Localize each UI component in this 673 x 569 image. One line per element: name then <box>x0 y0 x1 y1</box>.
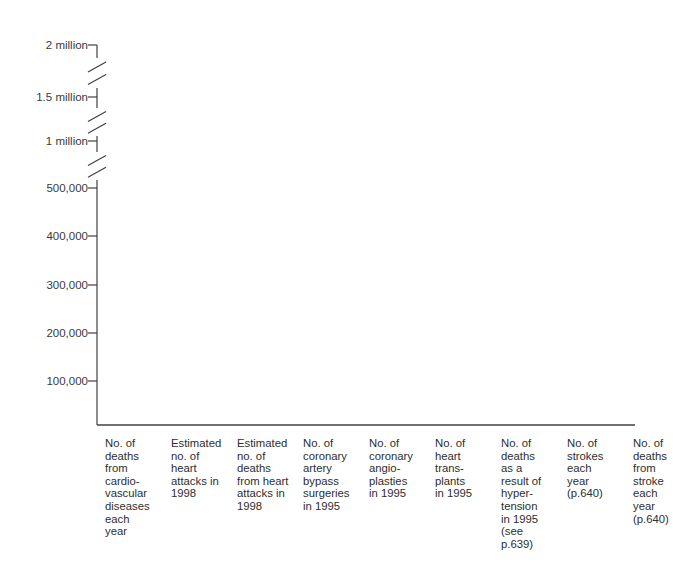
category-label: No. of deaths from cardio- vascular dise… <box>105 437 171 538</box>
category-label: No. of deaths as a result of hyper- tens… <box>501 437 567 550</box>
y-tick-label: 300,000 <box>46 279 88 291</box>
category-label: Estimated no. of deaths from heart attac… <box>237 437 303 513</box>
category-label: No. of coronary angio- plasties in 1995 <box>369 437 435 500</box>
y-tick-label: 200,000 <box>46 327 88 339</box>
y-tick-label: 500,000 <box>46 182 88 194</box>
y-tick-label: 1 million <box>46 135 88 147</box>
category-label: Estimated no. of heart attacks in 1998 <box>171 437 237 500</box>
category-labels: No. of deaths from cardio- vascular dise… <box>105 437 657 550</box>
category-label: No. of coronary artery bypass surgeries … <box>303 437 369 513</box>
category-label: No. of heart trans- plants in 1995 <box>435 437 501 500</box>
category-label: No. of deaths from stroke each year (p.6… <box>633 437 673 525</box>
y-axis-tick-labels: 2 million1.5 million1 million500,000400,… <box>0 0 88 430</box>
category-label: No. of strokes each year (p.640) <box>567 437 633 500</box>
y-tick-label: 400,000 <box>46 230 88 242</box>
y-tick-label: 1.5 million <box>36 91 88 103</box>
plot-area[interactable] <box>97 45 635 425</box>
y-tick-label: 100,000 <box>46 375 88 387</box>
y-tick-label: 2 million <box>46 39 88 51</box>
